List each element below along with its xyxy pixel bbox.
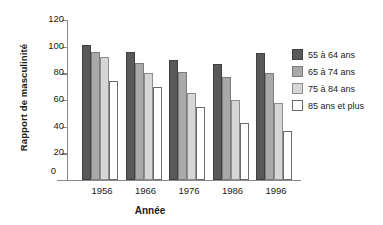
bar xyxy=(153,87,162,180)
bar-group xyxy=(213,20,249,180)
bar xyxy=(109,81,118,180)
bar xyxy=(187,93,196,180)
legend-item: 65 à 74 ans xyxy=(292,63,364,80)
y-axis-tick-mark xyxy=(62,180,68,181)
legend-swatch xyxy=(292,49,303,60)
x-axis-line xyxy=(57,180,301,181)
bar xyxy=(100,57,109,180)
bar-group xyxy=(169,20,205,180)
legend-item: 75 à 84 ans xyxy=(292,80,364,97)
bar xyxy=(91,52,100,180)
legend-label: 55 à 64 ans xyxy=(308,50,355,60)
plot-area: 20406080100120 19561966197619861996 xyxy=(68,20,290,180)
y-axis-tick-label: 40 xyxy=(34,120,64,131)
y-axis-tick-label: 120 xyxy=(34,13,64,24)
bar xyxy=(265,73,274,180)
y-axis-tick-label: 100 xyxy=(34,40,64,51)
bar xyxy=(222,77,231,180)
bar xyxy=(240,123,249,180)
bar xyxy=(178,72,187,180)
bar xyxy=(135,63,144,180)
y-axis-tick-label: 60 xyxy=(34,93,64,104)
bar-group xyxy=(82,20,118,180)
legend-swatch xyxy=(292,83,303,94)
bar xyxy=(82,45,91,180)
y-axis-tick-label: 80 xyxy=(34,66,64,77)
bar-chart: Rapport de masculinité 20406080100120 19… xyxy=(0,0,383,225)
bar xyxy=(231,100,240,180)
x-axis-title: Année xyxy=(0,205,300,216)
bar xyxy=(169,60,178,180)
legend-item: 55 à 64 ans xyxy=(292,46,364,63)
legend: 55 à 64 ans65 à 74 ans75 à 84 ans85 ans … xyxy=(292,46,364,114)
legend-label: 75 à 84 ans xyxy=(308,84,355,94)
bar xyxy=(283,131,292,180)
zero-tick-label: 0 xyxy=(36,165,56,176)
y-axis-tick-label: 20 xyxy=(34,146,64,157)
legend-swatch xyxy=(292,66,303,77)
bar xyxy=(256,53,265,180)
x-axis-tick-label: 1996 xyxy=(246,185,306,196)
bar xyxy=(196,107,205,180)
legend-swatch xyxy=(292,100,303,111)
axis-break-icon xyxy=(0,152,2,166)
bar-group xyxy=(126,20,162,180)
bar xyxy=(274,103,283,180)
bar xyxy=(213,64,222,180)
legend-label: 65 à 74 ans xyxy=(308,67,355,77)
bar xyxy=(126,52,135,180)
legend-item: 85 ans et plus xyxy=(292,97,364,114)
bar-group xyxy=(256,20,292,180)
bar xyxy=(144,73,153,180)
y-axis-title: Rapport de masculinité xyxy=(18,23,29,173)
legend-label: 85 ans et plus xyxy=(308,101,364,111)
